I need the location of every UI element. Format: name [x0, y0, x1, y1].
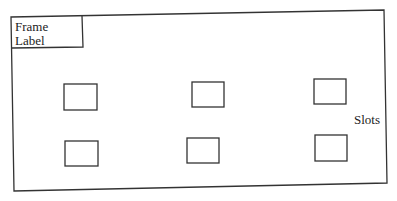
slot-3	[314, 79, 346, 104]
slot-5	[187, 138, 219, 163]
slots-label: Slots	[354, 113, 380, 127]
slot-4	[65, 141, 98, 166]
frame-label: Frame Label	[15, 20, 79, 48]
frame-label-line-1: Frame	[15, 20, 79, 34]
frame-label-line-2: Label	[15, 34, 79, 48]
slot-2	[192, 82, 224, 107]
slot-1	[64, 84, 97, 110]
slot-6	[315, 135, 347, 161]
